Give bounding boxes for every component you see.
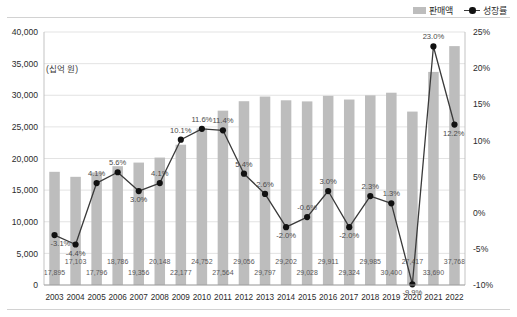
left-axis-tick-label: 30,000	[12, 90, 39, 100]
bar-value-label: 18,786	[107, 258, 129, 265]
bar-value-label: 29,056	[233, 258, 255, 265]
sales-growth-chart: 판매액 성장률 (십억 원) 05,00010,00015,00020,0002…	[0, 0, 517, 317]
bar[interactable]	[449, 46, 460, 285]
bar-value-labels-group: 17,89517,10317,79618,78619,35620,14822,1…	[44, 258, 465, 276]
growth-value-label: 11.4%	[212, 116, 233, 125]
bar-value-label: 29,797	[254, 269, 276, 276]
growth-point-marker[interactable]	[199, 126, 205, 132]
right-axis-tick-label: -5%	[473, 244, 489, 254]
growth-value-label: 4.1%	[88, 169, 106, 178]
growth-point-marker[interactable]	[51, 232, 57, 238]
x-axis-label: 2010	[193, 293, 212, 302]
left-axis-ticks-group: 05,00010,00015,00020,00025,00030,00035,0…	[12, 27, 39, 290]
x-axis-label: 2019	[382, 293, 401, 302]
growth-value-label: -0.6%	[297, 203, 317, 212]
x-axis-label: 2011	[214, 293, 232, 302]
right-axis-tick-label: 5%	[473, 172, 486, 182]
growth-value-label: -3.1%	[51, 239, 71, 248]
growth-value-label: 11.6%	[191, 115, 212, 124]
x-axis-label: 2015	[298, 293, 317, 302]
bar-value-label: 24,752	[191, 258, 213, 265]
growth-point-marker[interactable]	[220, 127, 226, 133]
x-axis-label: 2003	[45, 293, 64, 302]
bar-value-label: 19,356	[128, 269, 150, 276]
left-axis-tick-label: 10,000	[12, 217, 39, 227]
bar[interactable]	[428, 72, 439, 285]
growth-value-label: 3.0%	[320, 177, 338, 186]
growth-value-label: 10.1%	[170, 126, 192, 135]
bar-value-label: 29,202	[275, 258, 297, 265]
growth-value-label: -2.0%	[339, 231, 359, 240]
growth-point-marker[interactable]	[241, 171, 247, 177]
bar-value-label: 37,768	[444, 258, 466, 265]
bar-value-label: 17,103	[65, 258, 87, 265]
x-axis-label: 2007	[130, 293, 149, 302]
bar-value-label: 29,028	[296, 269, 318, 276]
bar[interactable]	[344, 100, 355, 285]
growth-point-marker[interactable]	[304, 214, 310, 220]
x-axis-label: 2004	[66, 293, 85, 302]
growth-value-label: 2.6%	[256, 180, 274, 189]
bar[interactable]	[176, 145, 187, 285]
x-axis-labels-group: 2003200420052006200720082009201020112012…	[45, 293, 464, 302]
bar[interactable]	[112, 166, 123, 285]
bar-value-label: 30,400	[381, 269, 403, 276]
x-axis-label: 2012	[235, 293, 254, 302]
x-axis-label: 2017	[340, 293, 359, 302]
growth-value-label: 12.2%	[443, 129, 465, 138]
left-axis-tick-label: 35,000	[12, 59, 39, 69]
growth-point-marker[interactable]	[409, 281, 415, 287]
x-axis-label: 2020	[403, 293, 422, 302]
bar[interactable]	[70, 177, 81, 285]
growth-point-marker[interactable]	[115, 169, 121, 175]
growth-point-marker[interactable]	[283, 224, 289, 230]
bar-value-label: 33,690	[423, 269, 445, 276]
bar-value-label: 27,417	[402, 258, 424, 265]
growth-value-label: 23.0%	[423, 32, 445, 41]
growth-value-label: -2.0%	[276, 231, 296, 240]
left-axis-tick-label: 40,000	[12, 27, 39, 37]
bar-value-label: 17,796	[86, 269, 108, 276]
bar-value-label: 29,324	[339, 269, 361, 276]
growth-point-marker[interactable]	[325, 188, 331, 194]
bar-value-label: 22,177	[170, 269, 192, 276]
left-axis-tick-label: 0	[33, 280, 38, 290]
growth-point-marker[interactable]	[94, 180, 100, 186]
growth-point-marker[interactable]	[262, 191, 268, 197]
bar-value-label: 29,911	[318, 258, 339, 265]
growth-point-marker[interactable]	[157, 180, 163, 186]
x-axis-label: 2014	[277, 293, 296, 302]
x-axis-label: 2021	[424, 293, 443, 302]
right-axis-tick-label: -10%	[473, 280, 493, 290]
growth-value-label: 5.6%	[109, 158, 127, 167]
growth-point-marker[interactable]	[136, 188, 142, 194]
x-axis-label: 2008	[151, 293, 170, 302]
x-axis-label: 2018	[361, 293, 380, 302]
growth-point-marker[interactable]	[72, 241, 78, 247]
growth-point-marker[interactable]	[451, 121, 457, 127]
right-axis-tick-label: 15%	[473, 99, 491, 109]
left-axis-tick-label: 20,000	[12, 154, 39, 164]
growth-point-marker[interactable]	[178, 137, 184, 143]
right-axis-tick-label: 10%	[473, 136, 491, 146]
growth-point-marker[interactable]	[388, 200, 394, 206]
x-axis-label: 2013	[256, 293, 275, 302]
growth-point-marker[interactable]	[367, 193, 373, 199]
growth-value-label: 3.0%	[130, 195, 148, 204]
growth-value-label: 5.4%	[235, 160, 253, 169]
bar-value-label: 29,985	[360, 258, 382, 265]
growth-point-marker[interactable]	[346, 224, 352, 230]
bar[interactable]	[133, 163, 144, 285]
bar[interactable]	[302, 101, 313, 285]
left-axis-tick-label: 25,000	[12, 122, 39, 132]
x-axis-label: 2005	[88, 293, 107, 302]
growth-point-marker[interactable]	[430, 43, 436, 49]
right-axis-tick-label: 25%	[473, 27, 491, 37]
left-axis-tick-label: 5,000	[16, 249, 38, 259]
x-axis-label: 2016	[319, 293, 338, 302]
x-axis-label: 2022	[445, 293, 464, 302]
growth-value-label: 4.1%	[151, 169, 169, 178]
bar-value-label: 17,895	[44, 269, 66, 276]
growth-value-label: 2.3%	[362, 182, 380, 191]
growth-value-label: -4.4%	[66, 249, 86, 258]
